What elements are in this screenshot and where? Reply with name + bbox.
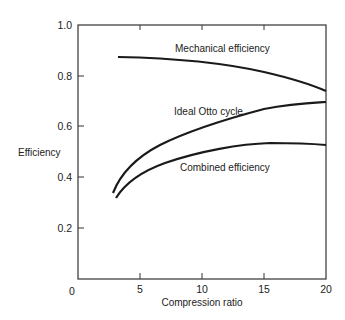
mechanical-efficiency-curve	[118, 57, 326, 91]
y-tick-label: 1.0	[57, 19, 72, 31]
y-tick-label: 0.4	[57, 171, 72, 183]
ideal-otto-cycle-label: Ideal Otto cycle	[174, 106, 243, 117]
x-tick-label: 20	[320, 283, 332, 295]
x-tick-label: 5	[137, 283, 143, 295]
y-tick-label: 0.6	[57, 120, 72, 132]
x-axis-label: Compression ratio	[161, 297, 243, 308]
y-tick-label: 0.8	[57, 70, 72, 82]
x-tick-label: 15	[258, 283, 270, 295]
combined-efficiency-label: Combined efficiency	[180, 162, 270, 173]
origin-label: 0	[69, 285, 75, 297]
y-axis-ticks	[78, 76, 84, 228]
y-tick-label: 0.2	[57, 222, 72, 234]
x-tick-label: 10	[196, 283, 208, 295]
y-axis-label: Efficiency	[18, 147, 61, 158]
efficiency-chart: 0.2 0.4 0.6 0.8 1.0 0 5 10 15 20 Efficie…	[0, 0, 345, 320]
mechanical-efficiency-label: Mechanical efficiency	[175, 43, 270, 54]
